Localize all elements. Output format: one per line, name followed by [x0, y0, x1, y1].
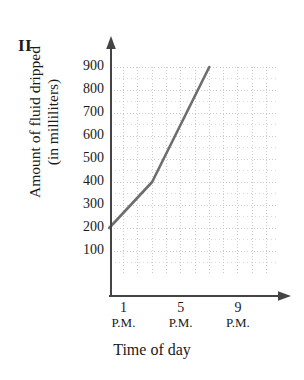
- x-axis-tick-label: 9P.M.: [203, 300, 273, 330]
- x-axis-tick-labels: 1P.M.5P.M.9P.M.: [0, 0, 304, 380]
- x-axis-title: Time of day: [0, 341, 304, 359]
- x-axis-tick-hour: 9: [203, 300, 273, 316]
- x-axis-tick-meridiem: P.M.: [203, 316, 273, 331]
- figure-panel: II Amount of fluid dripped (in millilite…: [0, 0, 304, 380]
